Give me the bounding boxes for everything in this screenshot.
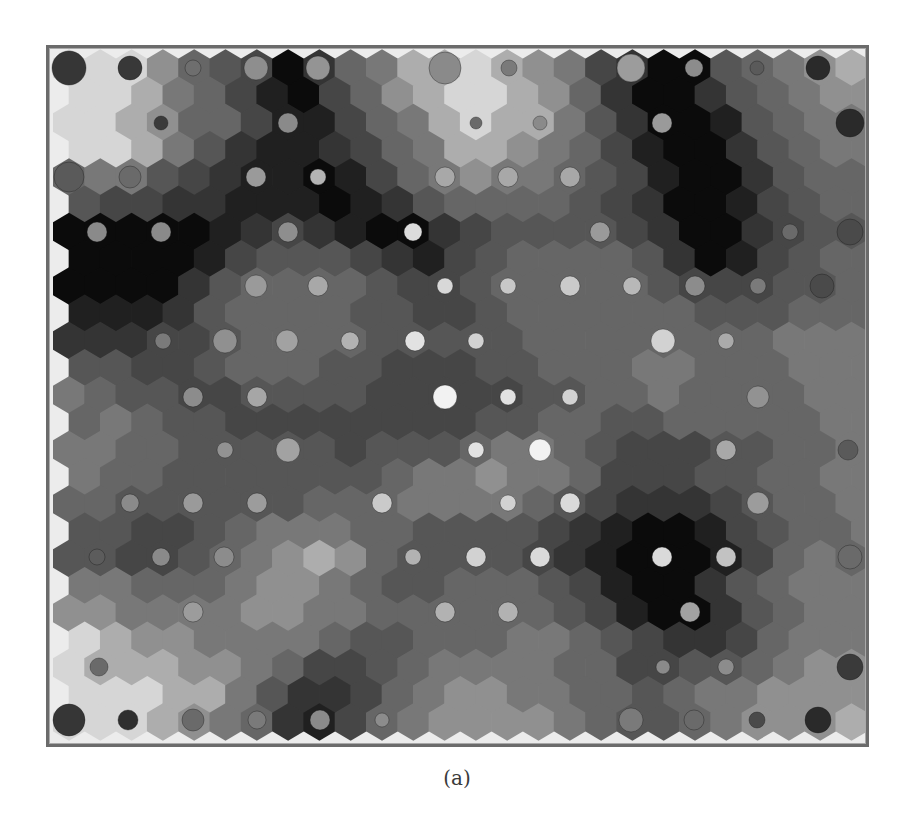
hit-marker bbox=[433, 385, 457, 409]
hit-marker bbox=[247, 387, 267, 407]
hit-marker bbox=[716, 440, 736, 460]
hit-marker bbox=[718, 333, 734, 349]
hit-marker bbox=[747, 386, 769, 408]
hit-marker bbox=[652, 113, 672, 133]
hit-marker bbox=[498, 602, 518, 622]
hit-marker bbox=[214, 547, 234, 567]
som-figure bbox=[0, 0, 914, 760]
hit-marker bbox=[278, 222, 298, 242]
hit-marker bbox=[375, 713, 389, 727]
hit-marker bbox=[341, 332, 359, 350]
hit-marker bbox=[245, 275, 267, 297]
hit-marker bbox=[89, 549, 105, 565]
hit-marker bbox=[118, 710, 138, 730]
hit-marker bbox=[54, 162, 84, 192]
hit-marker bbox=[530, 547, 550, 567]
figure-caption: (a) bbox=[0, 764, 914, 792]
hit-marker bbox=[560, 167, 580, 187]
hit-marker bbox=[837, 654, 863, 680]
hit-marker bbox=[651, 329, 675, 353]
hit-marker bbox=[310, 710, 330, 730]
hit-marker bbox=[404, 223, 422, 241]
hit-marker bbox=[500, 278, 516, 294]
hit-marker bbox=[437, 278, 453, 294]
hit-marker bbox=[716, 547, 736, 567]
hit-marker bbox=[656, 660, 670, 674]
hit-marker bbox=[750, 61, 764, 75]
hit-marker bbox=[468, 442, 484, 458]
hit-marker bbox=[685, 59, 703, 77]
hit-marker bbox=[183, 387, 203, 407]
hit-marker bbox=[183, 493, 203, 513]
hit-marker bbox=[182, 709, 204, 731]
hit-marker bbox=[500, 389, 516, 405]
hit-marker bbox=[806, 56, 830, 80]
hit-marker bbox=[747, 492, 769, 514]
hit-marker bbox=[782, 224, 798, 240]
hit-marker bbox=[90, 658, 108, 676]
hit-marker bbox=[718, 659, 734, 675]
hit-marker bbox=[470, 117, 482, 129]
hit-marker bbox=[278, 113, 298, 133]
hit-marker bbox=[213, 329, 237, 353]
hit-marker bbox=[750, 278, 766, 294]
hit-marker bbox=[154, 116, 168, 130]
hit-marker bbox=[805, 707, 831, 733]
hit-marker bbox=[623, 277, 641, 295]
hit-marker bbox=[500, 495, 516, 511]
hit-marker bbox=[590, 222, 610, 242]
hit-marker bbox=[152, 548, 170, 566]
hit-marker bbox=[837, 219, 863, 245]
hit-marker bbox=[310, 169, 326, 185]
hit-marker bbox=[87, 222, 107, 242]
hit-marker bbox=[684, 710, 704, 730]
hit-marker bbox=[749, 712, 765, 728]
hit-marker bbox=[306, 56, 330, 80]
hit-marker bbox=[247, 493, 267, 513]
hit-marker bbox=[246, 167, 266, 187]
hit-marker bbox=[276, 330, 298, 352]
hit-marker bbox=[466, 547, 486, 567]
hit-marker bbox=[372, 493, 392, 513]
hit-marker bbox=[217, 442, 233, 458]
hit-marker bbox=[53, 704, 85, 736]
hit-marker bbox=[52, 51, 86, 85]
hit-marker bbox=[562, 389, 578, 405]
hit-marker bbox=[810, 274, 834, 298]
hit-marker bbox=[685, 276, 705, 296]
hit-marker bbox=[276, 438, 300, 462]
hit-marker bbox=[248, 711, 266, 729]
hit-marker bbox=[836, 109, 864, 137]
hit-marker bbox=[501, 60, 517, 76]
hit-marker bbox=[119, 166, 141, 188]
hit-marker bbox=[405, 331, 425, 351]
hit-marker bbox=[435, 602, 455, 622]
som-hexagon-map bbox=[0, 0, 914, 760]
hit-marker bbox=[680, 602, 700, 622]
hit-marker bbox=[151, 222, 171, 242]
hit-marker bbox=[652, 547, 672, 567]
hit-marker bbox=[838, 440, 858, 460]
hit-marker bbox=[498, 167, 518, 187]
hit-marker bbox=[244, 56, 268, 80]
hit-marker bbox=[118, 56, 142, 80]
hit-marker bbox=[619, 708, 643, 732]
hit-marker bbox=[560, 276, 580, 296]
hit-marker bbox=[838, 545, 862, 569]
hit-marker bbox=[155, 333, 171, 349]
hit-marker bbox=[429, 52, 461, 84]
hit-marker bbox=[533, 116, 547, 130]
hit-marker bbox=[183, 602, 203, 622]
hit-marker bbox=[185, 60, 201, 76]
hit-marker bbox=[617, 54, 645, 82]
hit-marker bbox=[121, 494, 139, 512]
hit-marker bbox=[468, 333, 484, 349]
hit-marker bbox=[405, 549, 421, 565]
hit-marker bbox=[435, 167, 455, 187]
hit-marker bbox=[529, 439, 551, 461]
hit-marker bbox=[560, 493, 580, 513]
hit-marker bbox=[308, 276, 328, 296]
